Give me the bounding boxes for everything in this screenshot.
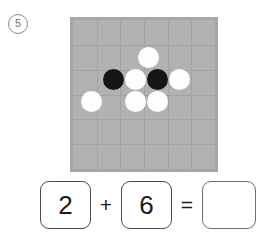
equation-row: 2 + 6 = (0, 180, 270, 230)
stone-white-mid-left[interactable] (125, 69, 146, 90)
stone-black-mid-right[interactable] (147, 69, 168, 90)
right-operand-box[interactable]: 6 (121, 181, 172, 229)
board-stones (73, 20, 215, 169)
stone-white-top[interactable] (138, 47, 159, 68)
equals-operator: = (172, 193, 202, 217)
stone-white-mid-right[interactable] (169, 69, 190, 90)
stone-white-bottom-3[interactable] (147, 91, 168, 112)
stone-white-bottom-1[interactable] (81, 91, 102, 112)
plus-operator: + (91, 193, 121, 217)
answer-input-box[interactable] (202, 181, 256, 229)
stone-grid-board[interactable] (70, 17, 218, 172)
stone-white-bottom-2[interactable] (125, 91, 146, 112)
stone-black-mid-left[interactable] (103, 69, 124, 90)
left-operand-box[interactable]: 2 (40, 181, 91, 229)
problem-number-badge: 5 (8, 14, 28, 34)
worksheet-page: 5 2 + 6 = (0, 0, 270, 232)
